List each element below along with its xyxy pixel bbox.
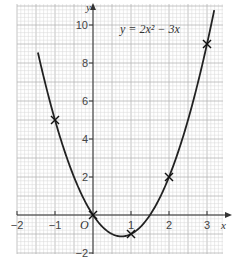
svg-text:3: 3: [204, 219, 210, 231]
axes: [17, 3, 232, 254]
svg-text:10: 10: [76, 19, 88, 31]
svg-text:6: 6: [82, 95, 88, 107]
y-axis-label: y: [85, 1, 91, 13]
svg-text:1: 1: [128, 219, 134, 231]
svg-text:2: 2: [82, 171, 88, 183]
x-axis-label: x: [220, 219, 226, 231]
equation-label: y = 2x² − 3x: [119, 22, 180, 36]
svg-text:−2: −2: [11, 219, 24, 231]
svg-text:8: 8: [82, 57, 88, 69]
svg-text:−2: −2: [75, 247, 88, 259]
parabola-chart: −2−1123−2246810 y = 2x² − 3x y x O: [0, 0, 235, 264]
grid: [17, 4, 223, 254]
origin-label: O: [80, 218, 89, 232]
svg-text:−1: −1: [49, 219, 62, 231]
svg-text:2: 2: [166, 219, 172, 231]
svg-text:4: 4: [82, 133, 88, 145]
